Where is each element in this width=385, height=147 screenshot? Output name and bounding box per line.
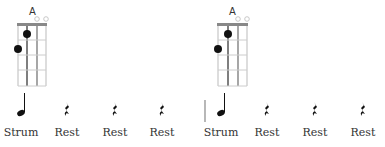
quarter-rest-icon — [113, 102, 117, 116]
quarter-rest-icon — [265, 102, 269, 116]
beat-label: Strum — [201, 126, 241, 139]
beat-label: Rest — [142, 126, 182, 139]
quarter-rest-icon — [65, 102, 69, 116]
beat-label: Rest — [47, 126, 87, 139]
quarter-note-icon — [216, 93, 226, 117]
rhythm-notation — [0, 0, 385, 147]
quarter-note-icon — [16, 93, 26, 117]
beat-label: Rest — [343, 126, 383, 139]
quarter-rest-icon — [313, 102, 317, 116]
beat-label: Strum — [1, 126, 41, 139]
beat-label: Rest — [95, 126, 135, 139]
beat-label: Rest — [295, 126, 335, 139]
quarter-rest-icon — [361, 102, 365, 116]
quarter-rest-icon — [160, 102, 164, 116]
beat-label: Rest — [247, 126, 287, 139]
